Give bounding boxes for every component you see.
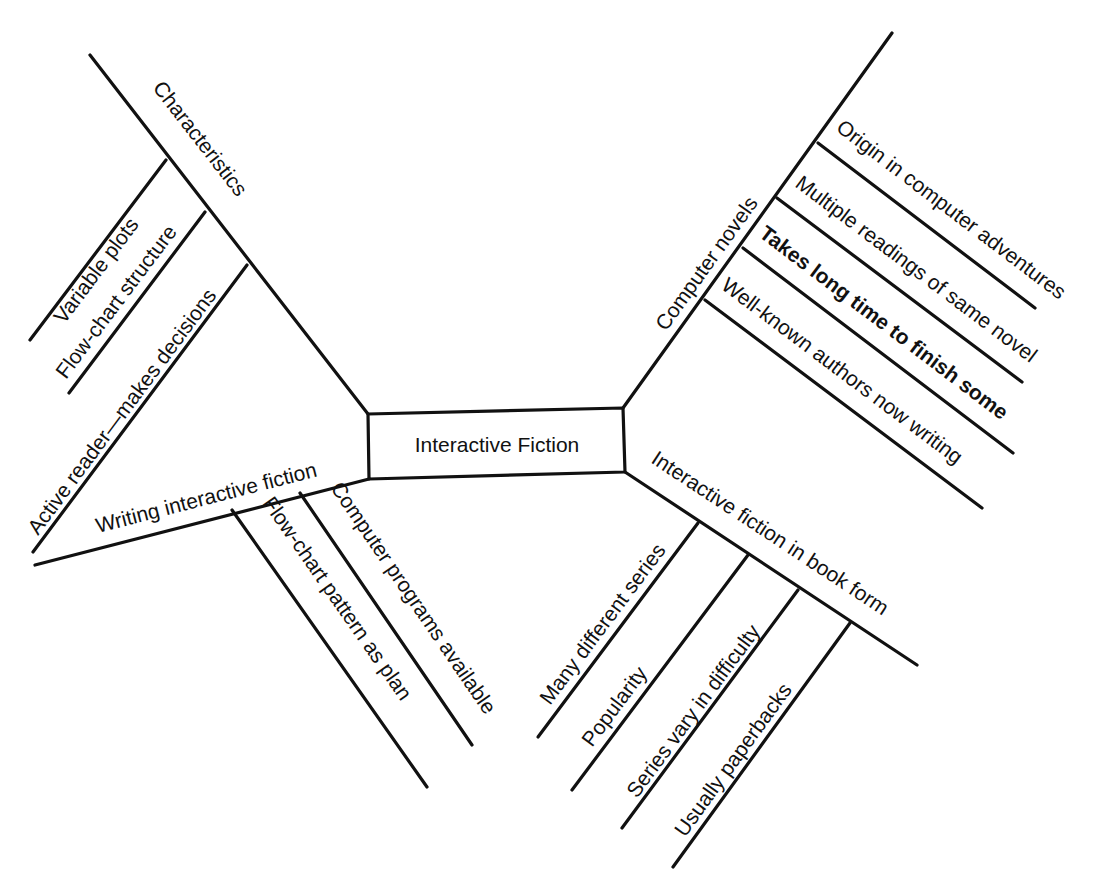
sub-line [232,510,427,787]
sub-label: Origin in computer adventures [833,115,1071,303]
sub-label: Series vary in difficulty [622,620,765,802]
branch-writing-interactive-fiction: Writing interactive fiction Flow-chart p… [35,458,501,787]
sub-line [69,212,205,393]
branch-label: Interactive fiction in book form [648,446,893,619]
sub-label: Popularity [577,661,652,750]
branch-label: Computer novels [651,192,762,334]
central-topic: Interactive Fiction [368,408,625,479]
branch-line [625,472,917,665]
sub-label: Flow-chart pattern as plan [259,492,417,704]
central-label: Interactive Fiction [415,433,580,456]
branch-computer-novels: Computer novels Origin in computer adven… [623,33,1071,508]
branch-label: Characteristics [149,76,252,200]
mind-map-diagram: Interactive Fiction Characteristics Vari… [0,0,1112,889]
sub-line [705,300,982,508]
branch-book-form: Interactive fiction in book form Many di… [535,446,917,867]
sub-label: Many different series [535,539,670,709]
sub-line [673,623,850,867]
sub-line [300,493,472,745]
sub-line [743,248,1013,453]
